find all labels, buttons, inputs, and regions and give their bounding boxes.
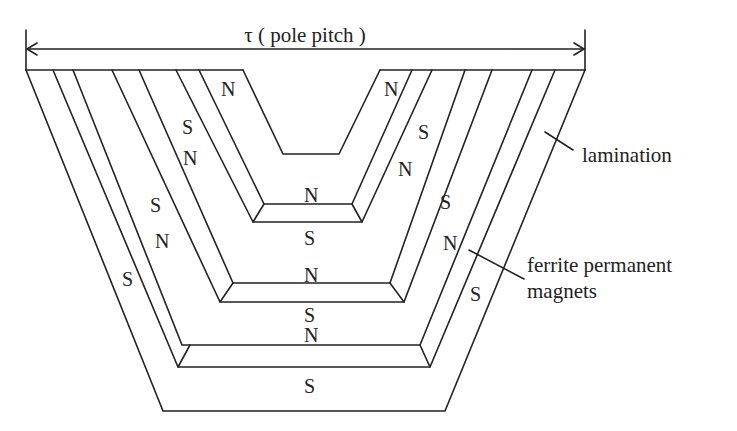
magnet-layer-2-chamfer-left (220, 283, 233, 302)
magnet-layer-3-bottom (178, 345, 430, 367)
rotor-pole-diagram: τ ( pole pitch ) lamination ferrite perm… (0, 0, 737, 431)
pole-pitch-label: τ ( pole pitch ) (244, 23, 366, 47)
pole-label: N (304, 264, 318, 286)
ferrite-leader-line (469, 250, 524, 279)
magnet-layer-2-outer (112, 70, 492, 302)
pole-label: S (304, 304, 315, 326)
pole-label: N (221, 78, 235, 100)
inner-notch (243, 70, 380, 154)
pole-label: S (150, 194, 161, 216)
pole-pitch-dimension: τ ( pole pitch ) (26, 23, 585, 70)
pole-label: S (182, 116, 193, 138)
pole-label: N (384, 78, 398, 100)
magnet-layer-2-inner (139, 70, 465, 283)
pole-label: N (443, 232, 457, 254)
pole-label: N (304, 184, 318, 206)
lamination-label: lamination (582, 143, 672, 167)
pole-label: S (122, 268, 133, 290)
ferrite-label-line2: magnets (527, 279, 597, 303)
pole-label: N (398, 158, 412, 180)
magnet-layer-1-chamfer-left (253, 204, 264, 222)
pole-labels: N N S N S N S S N S N S N S N S N S (122, 78, 481, 397)
magnet-layer-2-chamfer-right (390, 283, 404, 302)
pole-label: S (304, 375, 315, 397)
pole-label: S (440, 191, 451, 213)
pole-label: S (470, 283, 481, 305)
pole-label: N (183, 147, 197, 169)
magnet-layer-1-chamfer-right (352, 204, 362, 222)
pole-label: S (418, 121, 429, 143)
pole-label: N (304, 324, 318, 346)
pole-label: N (155, 230, 169, 252)
pole-label: S (304, 227, 315, 249)
ferrite-label-line1: ferrite permanent (527, 253, 672, 277)
